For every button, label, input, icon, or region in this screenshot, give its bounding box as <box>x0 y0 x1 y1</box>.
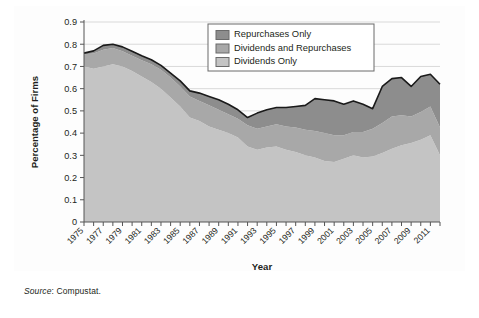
source-note: Source: Compustat. <box>24 286 101 296</box>
chart-panel: 00.10.20.30.40.50.60.70.80.9 19751977197… <box>14 6 465 271</box>
x-tick-label: 1977 <box>84 225 105 246</box>
x-axis-title: Year <box>252 261 273 271</box>
x-tick-label: 2003 <box>334 225 355 246</box>
source-label: Source <box>24 286 52 296</box>
x-tick-label: 2005 <box>353 225 374 246</box>
y-tick-label: 0.4 <box>64 128 77 138</box>
y-tick-label: 0.5 <box>64 106 77 116</box>
x-tick-label: 1999 <box>296 225 317 246</box>
x-tick-label: 1979 <box>103 225 124 246</box>
x-tick-label: 2001 <box>315 225 336 246</box>
x-tick-label: 1989 <box>200 225 221 246</box>
y-tick-label: 0.2 <box>64 173 77 183</box>
x-tick-label: 2009 <box>392 225 413 246</box>
x-tick-label: 1987 <box>180 225 201 246</box>
legend-label: Repurchases Only <box>234 28 311 39</box>
y-axis-title: Percentage of Firms <box>29 76 40 168</box>
x-tick-label: 1991 <box>219 225 240 246</box>
legend-swatch <box>216 44 229 53</box>
x-tick-label: 1993 <box>238 225 259 246</box>
x-tick-label: 2011 <box>412 225 432 245</box>
y-tick-label: 0.6 <box>64 84 77 94</box>
y-tick-label: 0.7 <box>64 62 77 72</box>
y-axis-ticks: 00.10.20.30.40.50.60.70.80.9 <box>64 17 84 227</box>
x-tick-label: 1995 <box>257 225 278 246</box>
y-tick-label: 0.3 <box>64 151 77 161</box>
legend-label: Dividends Only <box>234 55 297 66</box>
y-tick-label: 0.1 <box>64 195 77 205</box>
legend-swatch <box>216 31 229 40</box>
source-value: : Compustat. <box>52 286 101 296</box>
y-tick-label: 0.8 <box>64 40 77 50</box>
legend-label: Dividends and Repurchases <box>234 42 352 53</box>
x-tick-label: 1985 <box>161 225 182 246</box>
x-tick-label: 1997 <box>276 225 297 246</box>
legend-swatch <box>216 58 229 67</box>
y-tick-label: 0.9 <box>64 17 77 27</box>
x-tick-label: 2007 <box>373 225 394 246</box>
chart-legend: Repurchases OnlyDividends and Repurchase… <box>208 24 374 71</box>
x-axis-ticks: 1975197719791981198319851987198919911993… <box>65 222 440 246</box>
figure-container: 00.10.20.30.40.50.60.70.80.9 19751977197… <box>0 0 479 318</box>
stacked-area-chart: 00.10.20.30.40.50.60.70.80.9 19751977197… <box>14 6 465 271</box>
x-tick-label: 1975 <box>65 225 86 246</box>
y-tick-label: 0 <box>72 217 77 227</box>
x-tick-label: 1983 <box>142 225 163 246</box>
x-tick-label: 1981 <box>123 225 144 246</box>
